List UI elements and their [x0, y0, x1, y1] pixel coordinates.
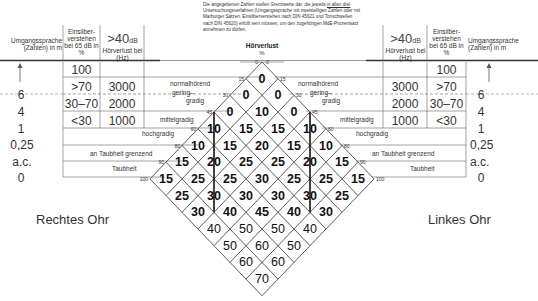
left-hz-1000: 1000: [100, 114, 144, 128]
tick-label: 60: [190, 126, 196, 132]
left-einsilber-lt30: <30: [63, 114, 100, 128]
mde-cell: 15: [287, 139, 301, 153]
mde-cell: 50: [271, 222, 285, 236]
left-speech-025: 0,25: [0, 138, 44, 152]
left-speech-6: 6: [14, 88, 28, 102]
mde-cell: 25: [191, 172, 205, 186]
mde-cell: 0: [275, 88, 282, 102]
tick-label: 80: [174, 143, 180, 149]
right-cat-mittelgradig: mittelgradig: [340, 116, 374, 123]
right-cat-taubheit: Taubheit: [410, 165, 435, 172]
mde-cell: 30: [271, 189, 285, 203]
mde-cell: 10: [191, 139, 205, 153]
mde-cell: 15: [239, 122, 253, 136]
mde-cell: 25: [287, 172, 301, 186]
mde-cell: 50: [239, 222, 253, 236]
right-speech-4: 4: [474, 105, 488, 119]
mde-cell: 0: [291, 105, 298, 119]
mde-cell: 25: [175, 189, 189, 203]
right-cat-hochgradig: hochgradig: [356, 130, 388, 137]
chart-lines: 0000100101515101015201510152025252015152…: [0, 0, 538, 301]
tick-label: 15: [280, 76, 286, 82]
mde-cell: 30: [207, 189, 221, 203]
left-speech-1: 1: [14, 122, 28, 136]
right-speech-ac: a.c.: [470, 155, 514, 169]
right-einsilber-lt30: <30: [427, 114, 466, 128]
mde-cell: 15: [335, 155, 349, 169]
mde-cell: 0: [243, 88, 250, 102]
right-cat-gering: gering–: [310, 89, 332, 96]
mde-cell: 0: [259, 72, 266, 86]
mde-cell: 40: [207, 222, 221, 236]
mde-cell: 30: [255, 172, 269, 186]
mde-cell: 20: [255, 139, 269, 153]
right-cat-gradig: gradig: [322, 97, 340, 104]
left-cat-hochgradig: hochgradig: [142, 130, 174, 137]
left-cat-mittelgradig: mittelgradig: [160, 116, 194, 123]
tick-label: 45: [312, 109, 318, 115]
mde-cell: 40: [287, 205, 301, 219]
right-hz-1000: 1000: [383, 114, 427, 128]
right-speech-6: 6: [474, 88, 488, 102]
mde-cell: 60: [239, 255, 253, 269]
mde-cell: 30: [319, 205, 333, 219]
mde-cell: 25: [271, 155, 285, 169]
tick-label: 60: [328, 126, 334, 132]
mde-cell: 30: [191, 205, 205, 219]
left-speech-4: 4: [14, 105, 28, 119]
mde-cell: 40: [303, 222, 317, 236]
mde-cell: 10: [207, 122, 221, 136]
mde-cell: 50: [223, 239, 237, 253]
left-cat-taubheit-grenzend: an Taubheit grenzend: [90, 150, 152, 157]
tick-label: 0: [255, 59, 258, 65]
tick-label: 45: [206, 109, 212, 115]
mde-cell: 15: [351, 172, 365, 186]
mde-cell: 60: [271, 255, 285, 269]
left-einsilber-gt70: >70: [63, 80, 100, 94]
right-hz-3000: 3000: [383, 80, 427, 94]
mde-cell: 25: [335, 189, 349, 203]
right-cat-normalhoerend: normalhörend: [298, 80, 338, 87]
tick-label: 30: [222, 92, 228, 98]
left-cat-normalhoerend: normalhörend: [170, 80, 210, 87]
mde-cell: 10: [255, 105, 269, 119]
mde-cell: 50: [287, 239, 301, 253]
mde-cell: 60: [255, 239, 269, 253]
left-cat-gradig: gradig: [186, 97, 204, 104]
tick-label: 80: [344, 143, 350, 149]
mde-cell: 15: [271, 122, 285, 136]
left-einsilber-100: 100: [63, 63, 100, 77]
mde-cell: 15: [175, 155, 189, 169]
mde-cell: 45: [255, 205, 269, 219]
tick-label: 0: [266, 59, 269, 65]
right-einsilber-30-70: 30–70: [427, 97, 466, 111]
mde-cell: 10: [319, 139, 333, 153]
mde-cell: 30: [303, 189, 317, 203]
right-speech-1: 1: [474, 122, 488, 136]
tick-label: 90: [360, 159, 366, 165]
left-ear-label: Linkes Ohr: [428, 212, 491, 227]
mde-cell: 40: [223, 205, 237, 219]
mde-cell: 15: [159, 172, 173, 186]
tick-label: 90: [158, 159, 164, 165]
right-einsilber-gt70: >70: [427, 80, 466, 94]
left-hz-3000: 3000: [100, 80, 144, 94]
right-cat-taubheit-grenzend: an Taubheit grenzend: [372, 150, 434, 157]
mde-cell: 20: [303, 155, 317, 169]
mde-cell: 30: [239, 189, 253, 203]
mde-cell: 20: [207, 155, 221, 169]
right-einsilber-100: 100: [427, 63, 466, 77]
tick-label: 100: [376, 176, 385, 182]
tick-label: 30: [296, 92, 302, 98]
left-cat-gering: gering–: [172, 89, 194, 96]
mde-cell: 25: [239, 155, 253, 169]
right-speech-0: 0: [474, 171, 488, 185]
mde-cell: 10: [303, 122, 317, 136]
left-einsilber-30-70: 30–70: [63, 97, 100, 111]
tick-label: 100: [140, 176, 149, 182]
left-cat-taubheit: Taubheit: [112, 165, 137, 172]
mde-cell: 0: [227, 105, 234, 119]
mde-cell: 25: [319, 172, 333, 186]
left-speech-ac: a.c.: [0, 155, 44, 169]
right-speech-025: 0,25: [470, 138, 514, 152]
